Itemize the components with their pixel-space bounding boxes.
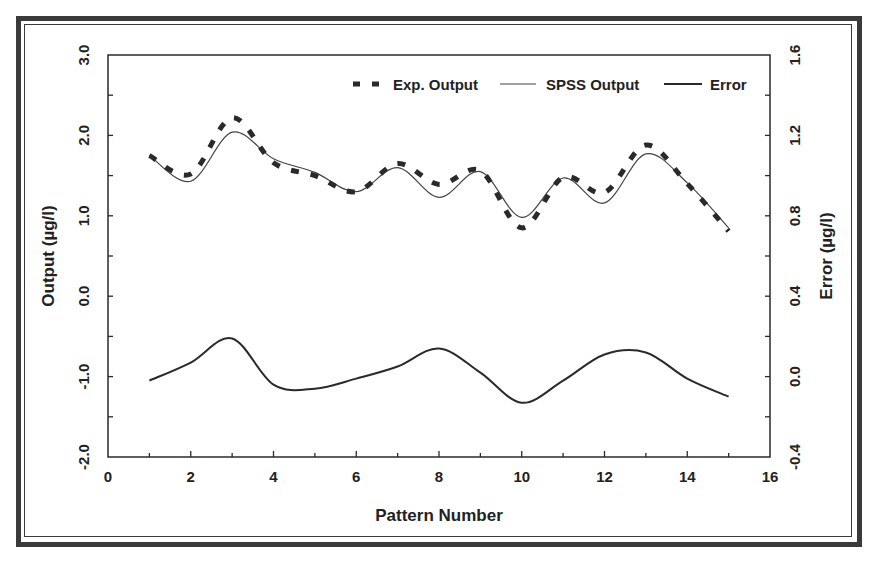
- x-tick-label: 2: [187, 468, 195, 485]
- y-right-tick-label: -0.4: [786, 443, 803, 470]
- y-right-tick-label: 1.2: [786, 125, 803, 146]
- legend-error-label: Error: [710, 76, 747, 93]
- x-tick-label: 14: [679, 468, 696, 485]
- y-right-tick-label: 0.8: [786, 205, 803, 226]
- x-tick-label: 0: [104, 468, 112, 485]
- x-tick-label: 10: [513, 468, 530, 485]
- y-left-axis-title: Output (µg/l): [39, 205, 58, 306]
- spss-output-line: [149, 132, 728, 228]
- x-tick-label: 4: [269, 468, 278, 485]
- y-right-tick-label: 1.6: [786, 45, 803, 66]
- chart-canvas: 0246810121416 -2.0-1.00.01.02.03.0 -0.40…: [0, 0, 876, 562]
- x-axis-title: Pattern Number: [375, 506, 503, 525]
- y-right-tick-label: 0.0: [786, 366, 803, 387]
- error-line: [149, 338, 728, 403]
- plot-area: [108, 55, 770, 457]
- x-tick-label: 12: [596, 468, 613, 485]
- y-left-tick-label: -1.0: [75, 364, 92, 390]
- y-left-tick-label: 3.0: [75, 45, 92, 66]
- x-tick-label: 16: [762, 468, 779, 485]
- legend-exp-label: Exp. Output: [393, 76, 478, 93]
- y-left-tick-label: -2.0: [75, 444, 92, 470]
- x-tick-label: 8: [435, 468, 443, 485]
- y-left-tick-label: 2.0: [75, 125, 92, 146]
- x-axis-ticks: 0246810121416: [104, 451, 779, 485]
- y-left-tick-label: 1.0: [75, 205, 92, 226]
- x-tick-label: 6: [352, 468, 360, 485]
- y-left-tick-label: 0.0: [75, 286, 92, 307]
- y-right-axis-title: Error (µg/l): [817, 212, 836, 299]
- legend: Exp. Output SPSS Output Error: [353, 76, 747, 93]
- legend-spss-label: SPSS Output: [546, 76, 639, 93]
- exp-output-line: [149, 118, 728, 231]
- y-right-tick-label: 0.4: [786, 285, 803, 307]
